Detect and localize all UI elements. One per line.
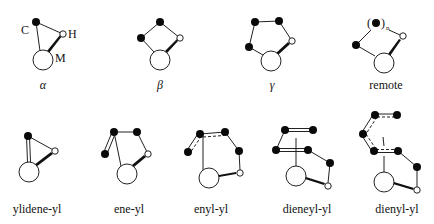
hydrogen-atom [414, 187, 420, 193]
metal-atom [19, 162, 39, 182]
structure-dienyl-yl: dienyl-yl [359, 111, 421, 216]
metal-atom [199, 168, 219, 188]
structure-enyl-yl: enyl-yl [184, 128, 243, 216]
carbon-atom [393, 111, 401, 119]
hydrogen-atom [60, 31, 66, 37]
carbon-atom [281, 126, 289, 134]
metal-atom [33, 50, 53, 70]
metal-atom [374, 172, 394, 192]
carbon-atom [251, 18, 259, 26]
carbon-atom [352, 41, 360, 49]
structure-dieneyl-yl: dieneyl-yl [272, 126, 334, 216]
carbon-atom [245, 43, 253, 51]
hydrogen-atom [52, 148, 58, 154]
structure-ylidene-yl: ylidene-yl [13, 132, 62, 216]
carbon-atom [110, 128, 118, 136]
caption-enyl-yl: enyl-yl [194, 202, 229, 216]
hydrogen-atom [289, 38, 295, 44]
caption-gamma: γ [270, 78, 275, 92]
metal-atom [286, 166, 306, 186]
caption-alpha: α [40, 78, 47, 92]
hydrogen-atom [325, 183, 331, 189]
hydrogen-atom [145, 151, 151, 157]
repeat-open-paren: ( [367, 16, 371, 30]
carbon-atom [275, 17, 283, 25]
carbon-atom [101, 150, 109, 158]
carbon-atom [370, 147, 378, 155]
carbon-atom [235, 147, 243, 155]
caption-ylidene-yl: ylidene-yl [13, 202, 62, 216]
structure-gamma: γ [245, 17, 295, 92]
repeat-n-subscript: n [386, 24, 390, 32]
hydrogen-atom [177, 35, 183, 41]
hydrogen-atom [400, 33, 406, 39]
structure-beta: β [137, 18, 183, 92]
carbon-atom [309, 126, 317, 134]
metal-atom [150, 50, 170, 70]
carbon-atom [137, 34, 145, 42]
caption-dieneyl-yl: dieneyl-yl [283, 202, 332, 216]
metal-atom [261, 51, 281, 71]
carbon-atom [156, 18, 164, 26]
repeat-close-paren: ) [381, 16, 385, 30]
carbon-atom [196, 130, 204, 138]
carbon-atom [371, 111, 379, 119]
carbon-atom [32, 18, 40, 26]
metal-atom [117, 164, 137, 184]
caption-ene-yl: ene-yl [114, 202, 145, 216]
caption-remote: remote [369, 78, 402, 92]
carbon-atom [221, 128, 229, 136]
carbon-label: C [21, 23, 29, 37]
carbon-atom [394, 147, 402, 155]
carbon-atom [24, 132, 32, 140]
carbon-atom [413, 163, 421, 171]
caption-beta: β [156, 78, 163, 92]
carbon-atom [272, 146, 280, 154]
carbon-atom-repeat [372, 19, 380, 27]
structure-remote: ( ) n remote [352, 16, 406, 92]
caption-dienyl-yl: dienyl-yl [375, 202, 419, 216]
carbon-atom [304, 146, 312, 154]
carbon-atom [359, 130, 367, 138]
carbon-atom [326, 159, 334, 167]
carbon-atom [184, 148, 192, 156]
metal-label: M [55, 51, 66, 65]
metal-atom [374, 53, 394, 73]
agostic-interaction-diagram: C H M α β γ ( [0, 0, 434, 224]
hydrogen-label: H [68, 27, 77, 41]
hydrogen-atom [237, 170, 243, 176]
structure-alpha: C H M α [21, 18, 77, 92]
carbon-atom [133, 128, 141, 136]
structure-ene-yl: ene-yl [101, 128, 151, 216]
